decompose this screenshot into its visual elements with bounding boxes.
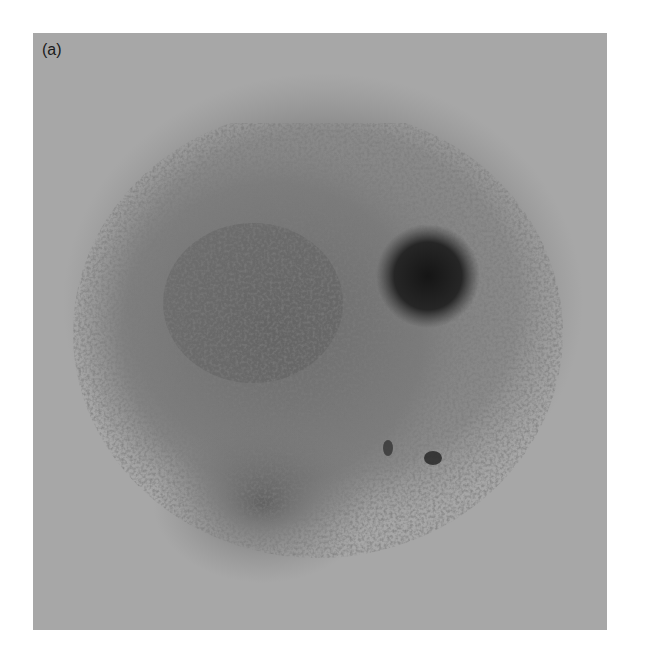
dense-dark-spot [376, 224, 480, 328]
photo-panel: (a) [33, 33, 607, 630]
panel-label: (a) [42, 41, 62, 59]
speckled-colony-image [33, 33, 607, 630]
